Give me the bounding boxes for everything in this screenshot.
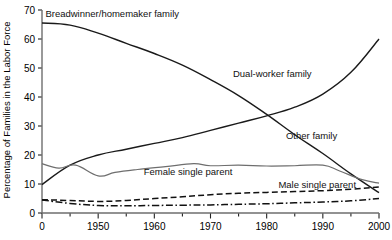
series-label-0: Breadwinner/homemaker family xyxy=(45,8,179,19)
y-tick-label: 30 xyxy=(24,121,36,132)
chart-container: Percentage of Families in the Labor Forc… xyxy=(0,0,392,240)
y-tick-label: 40 xyxy=(24,92,36,103)
x-tick-label: 1950 xyxy=(87,221,110,232)
y-tick-label: 10 xyxy=(24,179,36,190)
x-tick-label: 1980 xyxy=(256,221,279,232)
y-axis-ticks: 010203040506070 xyxy=(24,5,42,219)
x-tick-label: 1960 xyxy=(143,221,166,232)
x-axis-ticks: 0195019601970198019902000 xyxy=(39,213,390,232)
y-tick-label: 0 xyxy=(29,208,35,219)
y-tick-label: 70 xyxy=(24,5,36,16)
series-labels: Breadwinner/homemaker familyDual-worker … xyxy=(45,8,356,190)
series-label-1: Dual-worker family xyxy=(233,68,312,79)
series-label-2: Other family xyxy=(286,130,337,141)
series-label-4: Male single parent xyxy=(278,179,356,190)
family-labor-force-line-chart: Percentage of Families in the Labor Forc… xyxy=(0,0,392,240)
x-tick-label: 0 xyxy=(39,221,45,232)
x-tick-label: 1990 xyxy=(312,221,335,232)
x-tick-label: 1970 xyxy=(199,221,222,232)
y-tick-label: 50 xyxy=(24,63,36,74)
y-tick-label: 20 xyxy=(24,150,36,161)
series-line-4 xyxy=(42,199,379,206)
series-label-3: Female single parent xyxy=(144,166,233,177)
y-axis-title-text: Percentage of Families in the Labor Forc… xyxy=(1,22,12,199)
x-tick-label: 2000 xyxy=(368,221,391,232)
y-tick-label: 60 xyxy=(24,34,36,45)
series-line-1 xyxy=(42,39,379,185)
y-axis-title: Percentage of Families in the Labor Forc… xyxy=(1,22,12,199)
